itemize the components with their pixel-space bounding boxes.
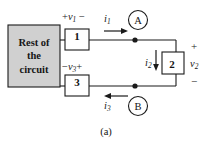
v1-right-sign: − <box>79 11 85 22</box>
rest-of-circuit-line-3: circuit <box>20 63 49 76</box>
i3-arrow <box>104 93 128 99</box>
v3-voltage-label: −v3+ <box>62 62 82 73</box>
i2-subscript: 2 <box>148 61 152 70</box>
i3-subscript: 3 <box>107 104 111 113</box>
node-dot-bottom <box>132 83 137 88</box>
v1-voltage-label: +v1 − <box>62 12 85 23</box>
v2-minus-sign: − <box>191 76 197 87</box>
meter-b-label: B <box>131 101 145 112</box>
i3-current-label: i3 <box>104 101 111 112</box>
figure-caption: (a) <box>0 126 212 137</box>
node-dot-top <box>132 37 137 42</box>
i1-subscript: 1 <box>107 17 111 26</box>
rest-of-circuit-line-2: the <box>27 49 41 62</box>
v3-right-sign: + <box>76 61 82 72</box>
v2-voltage-label: v2 <box>190 59 198 70</box>
v1-subscript: 1 <box>73 15 77 24</box>
rest-of-circuit-label: Rest of the circuit <box>10 28 58 84</box>
i1-arrow <box>104 28 128 34</box>
element-3-label: 3 <box>66 76 88 88</box>
i2-current-label: i2 <box>145 58 152 69</box>
i2-arrow <box>153 50 159 71</box>
v2-plus-sign: + <box>191 41 197 52</box>
element-2-label: 2 <box>163 58 181 70</box>
element-1-label: 1 <box>66 30 88 42</box>
rest-of-circuit-line-1: Rest of <box>18 36 49 49</box>
circuit-figure: Rest of the circuit 1 3 2 A B +v1 − −v3+… <box>0 0 212 148</box>
v2-subscript: 2 <box>195 62 199 71</box>
meter-a-label: A <box>131 15 145 26</box>
i1-current-label: i1 <box>104 14 111 25</box>
